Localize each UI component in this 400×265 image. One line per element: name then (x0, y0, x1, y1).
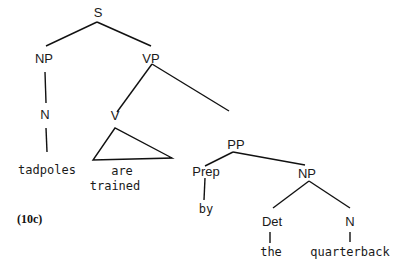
node-np: NP (35, 51, 53, 66)
word-tadpoles: tadpoles (18, 163, 76, 177)
syntax-tree: S NP VP N V PP Prep NP Det N tadpoles ar… (0, 0, 400, 265)
word-by: by (199, 202, 213, 216)
edge-pp-np (233, 152, 305, 165)
edge-s-np (46, 22, 97, 46)
node-pp: PP (227, 137, 244, 152)
node-v: V (111, 108, 120, 123)
edge-n-tadpoles (46, 128, 47, 152)
triangle-v (93, 128, 172, 160)
node-s: S (94, 5, 103, 20)
word-trained: trained (90, 179, 141, 193)
edge-np-n2 (309, 181, 350, 208)
edge-vp-v (117, 64, 152, 112)
tree-nodes: S NP VP N V PP Prep NP Det N (35, 5, 355, 229)
figure-label: (10c) (17, 212, 42, 226)
node-det: Det (262, 214, 283, 229)
edge-prep-by (204, 178, 205, 200)
edge-s-vp (97, 22, 151, 46)
node-prep: Prep (192, 164, 219, 179)
node-n: N (40, 107, 49, 122)
word-are: are (111, 164, 133, 178)
node-np2: NP (298, 166, 316, 181)
edge-np-det (273, 181, 309, 208)
edge-vp-pp (152, 64, 229, 111)
tree-edges (45, 22, 350, 243)
word-quarterback: quarterback (310, 245, 390, 259)
word-the: the (260, 245, 282, 259)
node-vp: VP (142, 51, 159, 66)
edge-np-n (45, 72, 46, 103)
node-n2: N (345, 214, 354, 229)
